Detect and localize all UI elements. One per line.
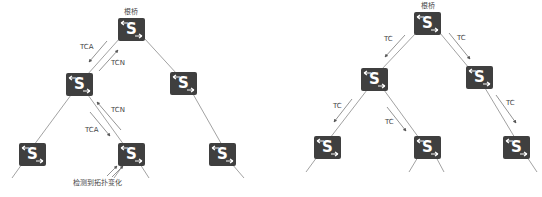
switch-bottom-right: S <box>209 143 236 166</box>
tc-label-root-right: TC <box>457 35 466 42</box>
switch-bottom-left: S <box>19 143 46 166</box>
switch-mid-left: S <box>361 68 388 91</box>
topology-links <box>0 0 542 197</box>
root-bridge-switch: S <box>118 18 145 41</box>
root-bridge-label: 根桥 <box>421 3 435 10</box>
switch-bottom-mid: S <box>414 136 441 159</box>
tc-label-midleft-right: TC <box>385 119 394 126</box>
root-bridge-switch: S <box>414 12 441 35</box>
switch-bottom-right: S <box>503 136 530 159</box>
switch-mid-right: S <box>466 66 493 89</box>
tcn-label-lower: TCN <box>111 107 125 114</box>
switch-mid-left: S <box>66 73 93 96</box>
tca-label-upper: TCA <box>80 44 94 51</box>
tcn-label-upper: TCN <box>111 60 125 67</box>
switch-bottom-left: S <box>314 136 341 159</box>
tc-label-midleft-left: TC <box>333 103 342 110</box>
tc-label-midright: TC <box>506 100 515 107</box>
switch-bottom-mid: S <box>118 143 145 166</box>
root-bridge-label: 根桥 <box>124 9 138 16</box>
topology-change-detected-label: 检测到拓扑变化 <box>73 180 122 187</box>
tc-label-root-left: TC <box>384 36 393 43</box>
switch-mid-right: S <box>170 72 197 95</box>
tca-label-lower: TCA <box>85 127 99 134</box>
